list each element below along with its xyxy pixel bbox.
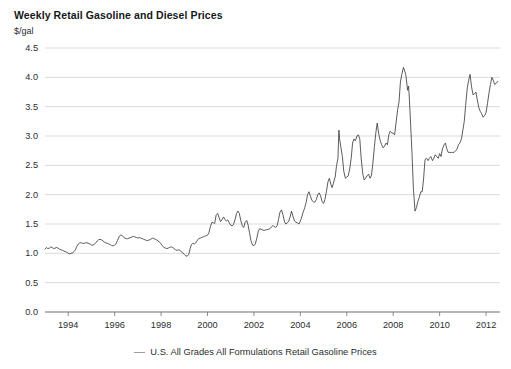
x-axis-tick-label: 1994 xyxy=(58,320,78,330)
y-axis-tick-label: 2.0 xyxy=(25,190,38,200)
line-chart-svg: 0.00.51.01.52.02.53.03.54.04.5 199419961… xyxy=(0,0,511,340)
y-axis-ticks: 0.00.51.01.52.02.53.03.54.04.5 xyxy=(25,43,38,317)
plot-area: 0.00.51.01.52.02.53.03.54.04.5 199419961… xyxy=(0,0,511,340)
x-axis-tick-label: 1998 xyxy=(151,320,171,330)
gridlines xyxy=(45,48,500,312)
x-axis-tick-label: 2000 xyxy=(197,320,217,330)
x-axis-ticks: 1994199619982000200220042006200820102012 xyxy=(58,312,496,330)
legend-series-label: U.S. All Grades All Formulations Retail … xyxy=(150,347,376,357)
y-axis-tick-label: 3.5 xyxy=(25,102,38,112)
y-axis-tick-label: 1.5 xyxy=(25,219,38,229)
x-axis-tick-label: 2004 xyxy=(290,320,310,330)
y-axis-tick-label: 3.0 xyxy=(25,131,38,141)
chart-figure: Weekly Retail Gasoline and Diesel Prices… xyxy=(0,0,511,369)
x-axis-tick-label: 2010 xyxy=(429,320,449,330)
y-axis-tick-label: 4.0 xyxy=(25,72,38,82)
y-axis-tick-label: 1.0 xyxy=(25,248,38,258)
y-axis-tick-label: 0.0 xyxy=(25,307,38,317)
y-axis-tick-label: 0.5 xyxy=(25,278,38,288)
legend-line-marker xyxy=(134,352,145,353)
series-line xyxy=(45,67,498,256)
x-axis-tick-label: 2012 xyxy=(476,320,496,330)
x-axis-tick-label: 2002 xyxy=(244,320,264,330)
x-axis-tick-label: 1996 xyxy=(104,320,124,330)
x-axis-tick-label: 2008 xyxy=(383,320,403,330)
x-axis-tick-label: 2006 xyxy=(337,320,357,330)
y-axis-tick-label: 4.5 xyxy=(25,43,38,53)
y-axis-tick-label: 2.5 xyxy=(25,160,38,170)
data-series xyxy=(45,67,498,256)
chart-legend: U.S. All Grades All Formulations Retail … xyxy=(0,347,511,357)
